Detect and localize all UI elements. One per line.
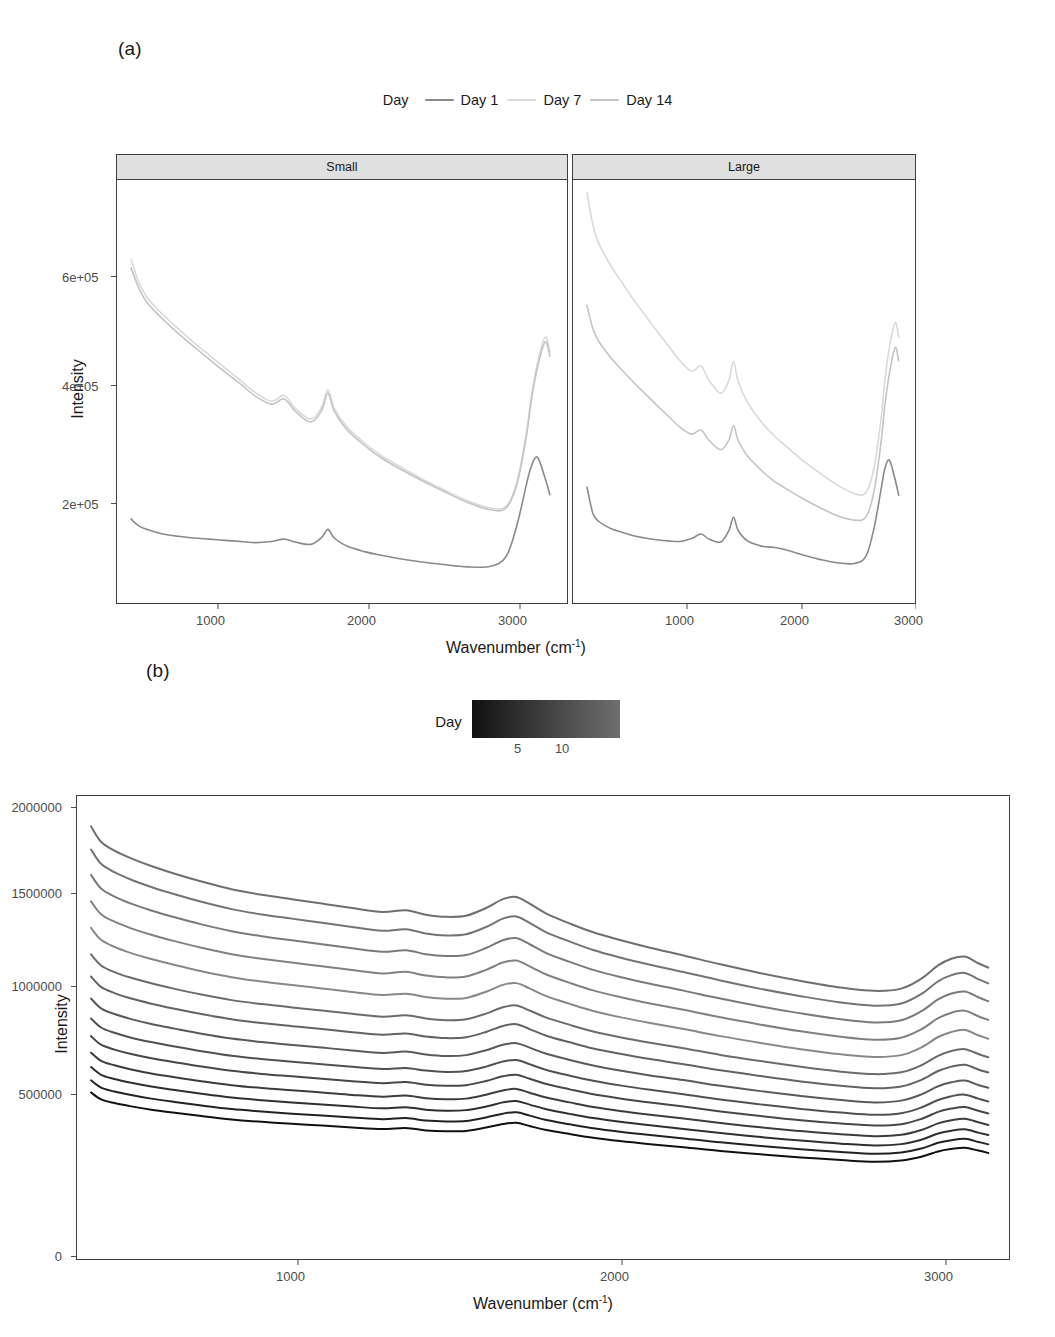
y-tick-a-4e05: 4e+05 <box>62 379 99 394</box>
legend-key-day-14 <box>590 99 619 102</box>
legend-entry-day-14[interactable]: Day 14 <box>590 92 672 108</box>
panel-a-letter: (a) <box>118 38 142 60</box>
x-axis-title-a-close: ) <box>581 639 586 656</box>
colorbar-gradient[interactable] <box>472 700 620 738</box>
x-tick-a-small-2000: 2000 <box>347 613 376 628</box>
x-tick-a-large-3000: 3000 <box>894 613 923 628</box>
colorbar-tick-5: 5 <box>514 741 521 756</box>
legend-title-day: Day <box>383 92 409 108</box>
x-tick-a-small-3000: 3000 <box>498 613 527 628</box>
colorbar-ticks: 5 10 <box>472 738 620 760</box>
x-axis-ticks-b <box>76 1260 1010 1268</box>
y-tick-b-2000000: 2000000 <box>0 800 62 815</box>
x-tick-b-3000: 3000 <box>924 1269 953 1284</box>
y-tick-a-6e05: 6e+05 <box>62 270 99 285</box>
legend-key-day-1 <box>425 99 454 102</box>
spectrum-line <box>91 1092 988 1161</box>
colorbar-tick-10: 10 <box>555 741 569 756</box>
x-axis-title-b-text: Wavenumber (cm <box>473 1295 599 1312</box>
plot-area-large <box>572 180 916 604</box>
y-tick-b-1500000: 1500000 <box>0 886 62 901</box>
x-axis-title-b: Wavenumber (cm-1) <box>76 1294 1010 1313</box>
x-axis-title-a: Wavenumber (cm-1) <box>116 638 916 657</box>
y-tick-b-1000000: 1000000 <box>0 979 62 994</box>
y-axis-ticks-b <box>68 795 77 1265</box>
facet-strip-small: Small <box>116 154 568 180</box>
colorbar-column: 5 10 <box>472 700 620 760</box>
spectrum-line <box>587 460 899 564</box>
colorbar-title-day: Day <box>435 700 462 730</box>
facet-strip-large: Large <box>572 154 916 180</box>
x-axis-title-b-close: ) <box>608 1295 613 1312</box>
spectrum-line <box>91 875 988 1023</box>
spectrum-line <box>91 1036 988 1125</box>
legend-panel-a: Day Day 1 Day 7 Day 14 <box>0 92 1055 108</box>
x-tick-b-1000: 1000 <box>276 1269 305 1284</box>
spectrum-line <box>91 849 988 1005</box>
legend-entry-day-1[interactable]: Day 1 <box>425 92 499 108</box>
spectra-lines-b <box>77 796 1009 1259</box>
x-axis-title-a-text: Wavenumber (cm <box>446 639 572 656</box>
legend-label-day-7: Day 7 <box>543 92 581 108</box>
legend-key-day-7 <box>507 99 536 102</box>
x-tick-a-large-1000: 1000 <box>665 613 694 628</box>
facet-label-large: Large <box>728 160 760 174</box>
panel-b-letter: (b) <box>146 660 170 682</box>
legend-entry-day-7[interactable]: Day 7 <box>507 92 581 108</box>
legend-label-day-14: Day 14 <box>626 92 672 108</box>
x-axis-title-a-sup: -1 <box>572 638 581 649</box>
legend-label-day-1: Day 1 <box>461 92 499 108</box>
x-axis-ticks-a <box>116 604 916 612</box>
spectrum-line <box>587 305 899 520</box>
y-axis-ticks-a <box>108 180 117 604</box>
facet-label-small: Small <box>326 160 357 174</box>
spectrum-line <box>131 259 550 509</box>
x-tick-a-small-1000: 1000 <box>196 613 225 628</box>
x-tick-a-large-2000: 2000 <box>780 613 809 628</box>
y-tick-a-2e05: 2e+05 <box>62 497 99 512</box>
y-tick-b-0: 0 <box>0 1249 62 1264</box>
plot-area-b <box>76 795 1010 1260</box>
plot-area-small <box>116 180 568 604</box>
spectrum-line <box>131 268 550 511</box>
spectra-lines-large <box>573 180 915 602</box>
x-axis-title-b-sup: -1 <box>599 1294 608 1305</box>
spectrum-line <box>91 1080 988 1154</box>
x-tick-b-2000: 2000 <box>600 1269 629 1284</box>
spectrum-line <box>91 1067 988 1145</box>
colorbar-legend: Day 5 10 <box>0 700 1055 760</box>
spectrum-line <box>131 457 550 567</box>
spectra-lines-small <box>117 180 567 602</box>
y-tick-b-500000: 500000 <box>0 1087 62 1102</box>
figure-root: (a) Day Day 1 Day 7 Day 14 Small Large I… <box>0 0 1055 1337</box>
